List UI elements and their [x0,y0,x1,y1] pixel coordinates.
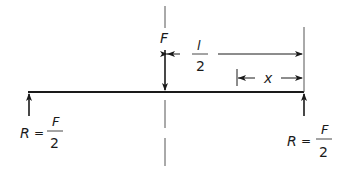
half-span-numerator: l [197,38,201,53]
left-reaction-denominator: 2 [50,135,59,151]
distance-label: x [263,70,273,86]
left-reaction-equals: = [34,126,44,140]
right-reaction-symbol: R [287,133,297,149]
left-reaction-symbol: R [20,125,30,141]
right-reaction-equals: = [301,134,311,148]
right-reaction-numerator: F [321,122,329,137]
beam-diagram: F l 2 x R = F 2 R = F 2 [0,0,348,174]
half-span-dimension [167,51,302,57]
load-label: F [160,30,169,46]
half-span-denominator: 2 [196,58,205,74]
right-reaction-denominator: 2 [319,144,328,160]
left-reaction-numerator: F [52,114,60,129]
